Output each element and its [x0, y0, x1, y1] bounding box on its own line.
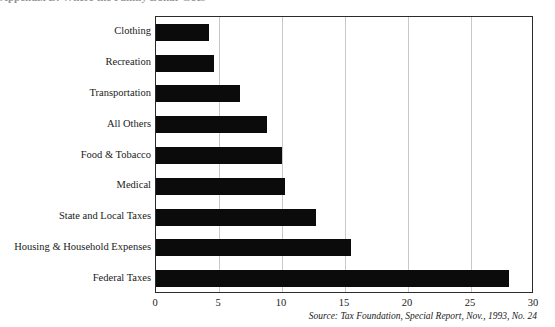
bar	[156, 147, 282, 164]
category-label: State and Local Taxes	[0, 210, 151, 222]
bar	[156, 209, 316, 226]
category-label: Housing & Household Expenses	[0, 241, 151, 253]
x-tick-label: 20	[402, 296, 413, 309]
x-axis-tick-labels: 051015202530	[0, 296, 555, 310]
bar	[156, 55, 214, 72]
source-note: Source: Tax Foundation, Special Report, …	[309, 310, 537, 322]
plot-area	[155, 16, 533, 293]
x-tick-label: 30	[528, 296, 539, 309]
x-tick-label: 15	[339, 296, 350, 309]
x-tick-label: 10	[276, 296, 287, 309]
bar	[156, 178, 285, 195]
category-label: Recreation	[0, 56, 151, 68]
category-label: All Others	[0, 118, 151, 130]
bars	[156, 17, 532, 292]
category-label: Transportation	[0, 87, 151, 99]
x-tick-label: 5	[215, 296, 220, 309]
bar	[156, 85, 240, 102]
clipped-title-remnant: Appendix B: Where the Family Dollar Goes	[0, 0, 300, 3]
bar	[156, 116, 267, 133]
category-label: Federal Taxes	[0, 272, 151, 284]
x-tick-label: 0	[152, 296, 157, 309]
bar	[156, 270, 509, 287]
chart-figure: Appendix B: Where the Family Dollar Goes…	[0, 0, 555, 327]
bar	[156, 24, 209, 41]
bar	[156, 239, 351, 256]
category-label: Medical	[0, 179, 151, 191]
category-label: Food & Tobacco	[0, 149, 151, 161]
x-tick-label: 25	[465, 296, 476, 309]
category-axis-labels: ClothingRecreationTransportationAll Othe…	[0, 16, 151, 293]
category-label: Clothing	[0, 25, 151, 37]
